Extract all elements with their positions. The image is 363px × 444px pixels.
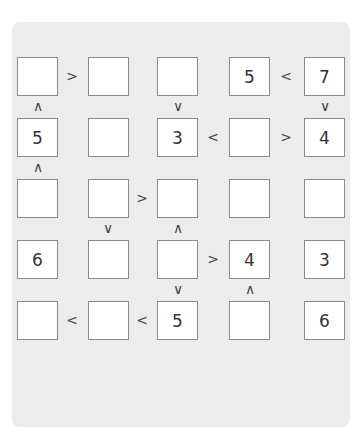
cell-r2-c4[interactable]: [304, 179, 345, 218]
less-than-sign: <: [64, 312, 80, 328]
cell-r0-c3: 5: [229, 57, 270, 96]
less-than-sign: <: [205, 129, 221, 145]
cell-r0-c2[interactable]: [157, 57, 198, 96]
cell-r0-c4: 7: [304, 57, 345, 96]
cell-r1-c4: 4: [304, 118, 345, 157]
cell-r2-c1[interactable]: [88, 179, 129, 218]
down-sign: ∨: [170, 98, 186, 114]
cell-r4-c0[interactable]: [17, 301, 58, 340]
greater-than-sign: >: [205, 251, 221, 267]
cell-r4-c2: 5: [157, 301, 198, 340]
cell-r1-c2: 3: [157, 118, 198, 157]
cell-r2-c0[interactable]: [17, 179, 58, 218]
cell-r2-c2[interactable]: [157, 179, 198, 218]
cell-r3-c2[interactable]: [157, 240, 198, 279]
cell-r2-c3[interactable]: [229, 179, 270, 218]
cell-r1-c3[interactable]: [229, 118, 270, 157]
cell-r1-c1[interactable]: [88, 118, 129, 157]
cell-r4-c3[interactable]: [229, 301, 270, 340]
cell-r0-c1[interactable]: [88, 57, 129, 96]
cell-r1-c0: 5: [17, 118, 58, 157]
greater-than-sign: >: [278, 129, 294, 145]
down-sign: ∨: [100, 220, 116, 236]
cell-r3-c3: 4: [229, 240, 270, 279]
greater-than-sign: >: [64, 68, 80, 84]
less-than-sign: <: [278, 68, 294, 84]
up-sign: ∧: [242, 281, 258, 297]
down-sign: ∨: [170, 281, 186, 297]
greater-than-sign: >: [134, 190, 150, 206]
up-sign: ∧: [30, 159, 46, 175]
up-sign: ∧: [170, 220, 186, 236]
cell-r0-c0[interactable]: [17, 57, 58, 96]
cell-r3-c1[interactable]: [88, 240, 129, 279]
down-sign: ∨: [317, 98, 333, 114]
cell-r4-c1[interactable]: [88, 301, 129, 340]
cell-r3-c0: 6: [17, 240, 58, 279]
cell-r3-c4: 3: [304, 240, 345, 279]
less-than-sign: <: [134, 312, 150, 328]
up-sign: ∧: [30, 98, 46, 114]
cell-r4-c4: 6: [304, 301, 345, 340]
puzzle-board: 5 7 5 3 4 6 4 3 5 6 > < < > > > < < ∧ ∨ …: [12, 22, 350, 427]
